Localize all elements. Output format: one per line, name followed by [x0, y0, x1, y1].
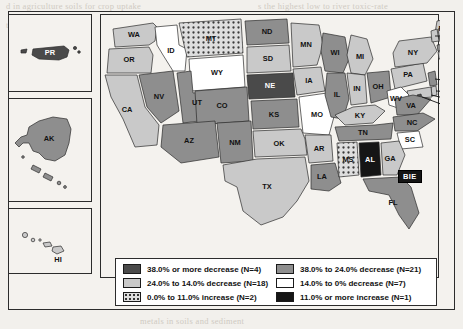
state-label-PR: PR: [45, 48, 56, 57]
island-dot-pr-w: [21, 49, 27, 53]
state-label-AK: AK: [44, 134, 55, 143]
legend-row-1: 38.0% or more decrease (N=4) 38.0% to 24…: [123, 262, 429, 276]
state-label-MI: MI: [356, 52, 364, 61]
state-label-OR: OR: [123, 55, 135, 64]
legend: 38.0% or more decrease (N=4) 38.0% to 24…: [115, 258, 437, 306]
state-label-LA: LA: [317, 172, 328, 181]
inset-puerto-rico: PR: [8, 14, 92, 92]
state-label-IA: IA: [305, 76, 313, 85]
choropleth-map: WA OR CA NV ID MT WY UT CO AZ NM TX OK K…: [101, 15, 440, 279]
legend-row-2: 24.0% to 14.0% decrease (N=18) 14.0% to …: [123, 276, 429, 290]
state-label-CA: CA: [122, 105, 133, 114]
state-label-CO: CO: [216, 101, 227, 110]
legend-label-3: 24.0% to 14.0% decrease (N=18): [147, 279, 268, 288]
state-label-GA: GA: [384, 154, 396, 163]
legend-swatch-1: [123, 264, 141, 274]
island-molokai: [39, 239, 41, 241]
legend-item-2: 38.0% to 24.0% decrease (N=21): [276, 264, 429, 274]
island-dot-pr-e1: [73, 46, 76, 49]
state-label-WA: WA: [128, 30, 141, 39]
state-shape-CT: [438, 51, 440, 59]
state-label-IN: IN: [353, 84, 360, 93]
state-label-ID: ID: [167, 46, 175, 55]
legend-label-6: 11.0% or more increase (N=1): [300, 293, 411, 302]
state-label-SD: SD: [263, 54, 274, 63]
contiguous-us-map-panel: WA OR CA NV ID MT WY UT CO AZ NM TX OK K…: [100, 14, 439, 278]
state-label-MT: MT: [206, 34, 217, 43]
state-label-VA: VA: [406, 101, 416, 110]
state-label-SC: SC: [405, 135, 416, 144]
island-kauai: [22, 232, 27, 237]
state-shape-NJ: [428, 71, 437, 86]
alaska-map: AK: [9, 99, 93, 203]
state-label-UT: UT: [192, 98, 202, 107]
background-bleed-text-4: s the highest low to river toxic-rate: [258, 1, 388, 11]
inset-hawaii: HI: [8, 208, 92, 274]
state-label-TX: TX: [262, 182, 272, 191]
legend-row-3: 0.0% to 11.0% increase (N=2) 11.0% or mo…: [123, 290, 429, 304]
inset-column: PR AK HI: [8, 14, 92, 278]
state-label-IL: IL: [334, 90, 341, 99]
state-shape-TX: [223, 157, 309, 225]
background-bleed-text-1: d in agriculture soils for crop uptake: [6, 1, 141, 11]
state-label-ME: ME: [438, 24, 440, 33]
island-dot-pr-e2: [78, 51, 81, 54]
legend-item-4: 14.0% to 0% decrease (N=7): [276, 278, 429, 288]
island-maui: [43, 242, 52, 247]
state-label-OH: OH: [372, 82, 383, 91]
state-label-WV: WV: [390, 94, 402, 103]
state-label-NY: NY: [408, 48, 418, 57]
legend-swatch-3: [123, 278, 141, 288]
state-label-ND: ND: [262, 27, 273, 36]
aleutian-chain-1: [31, 165, 41, 173]
legend-swatch-5: [123, 292, 141, 302]
aleutian-chain-2: [43, 173, 53, 181]
state-label-KS: KS: [269, 110, 279, 119]
state-label-TN: TN: [358, 128, 368, 137]
legend-label-1: 38.0% or more decrease (N=4): [147, 265, 261, 274]
state-shape-MA: [437, 43, 440, 51]
legend-label-2: 38.0% to 24.0% decrease (N=21): [300, 265, 421, 274]
legend-swatch-2: [276, 264, 294, 274]
aleutian-dot-2: [64, 186, 67, 189]
island-oahu: [31, 238, 35, 242]
puerto-rico-map: PR: [9, 15, 93, 93]
background-bleed-text-9: metals in soils and sediment: [140, 316, 244, 326]
state-label-MO: MO: [311, 110, 323, 119]
legend-item-5: 0.0% to 11.0% increase (N=2): [123, 292, 276, 302]
legend-swatch-4: [276, 278, 294, 288]
state-label-NE: NE: [265, 81, 275, 90]
state-label-AR: AR: [314, 144, 325, 153]
island-hawaii: [52, 246, 64, 254]
legend-label-5: 0.0% to 11.0% increase (N=2): [147, 293, 257, 302]
legend-item-1: 38.0% or more decrease (N=4): [123, 264, 276, 274]
aleutian-dot-3: [22, 156, 25, 159]
state-label-WI: WI: [330, 48, 339, 57]
legend-swatch-6: [276, 292, 294, 302]
state-label-AZ: AZ: [184, 136, 194, 145]
aleutian-dot-1: [57, 181, 61, 185]
state-label-HI: HI: [54, 255, 61, 264]
state-label-NV: NV: [154, 92, 164, 101]
state-label-NC: NC: [407, 118, 418, 127]
state-label-NM: NM: [229, 138, 241, 147]
legend-item-6: 11.0% or more increase (N=1): [276, 292, 429, 302]
legend-item-3: 24.0% to 14.0% decrease (N=18): [123, 278, 276, 288]
hawaii-map: HI: [9, 209, 93, 275]
legend-label-4: 14.0% to 0% decrease (N=7): [300, 279, 406, 288]
inset-alaska: AK: [8, 98, 92, 202]
state-label-OK: OK: [273, 139, 285, 148]
state-label-WY: WY: [211, 68, 223, 77]
state-label-KY: KY: [355, 111, 365, 120]
state-label-PA: PA: [403, 70, 413, 79]
bie-marker: BIE: [398, 170, 422, 183]
state-label-MS: MS: [342, 155, 353, 164]
state-label-MN: MN: [300, 40, 312, 49]
state-label-AL: AL: [365, 155, 375, 164]
state-label-FL: FL: [388, 198, 398, 207]
